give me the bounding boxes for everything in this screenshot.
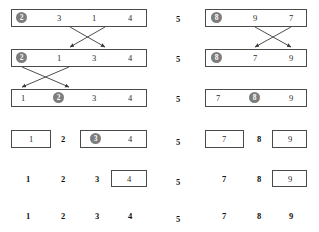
separator-value-row6: 5 xyxy=(172,214,184,224)
left-r5-c3: 3 xyxy=(91,175,103,184)
right-r1-c1-highlight: 8 xyxy=(211,12,222,23)
left-r2-c1-highlight: 2 xyxy=(16,52,27,63)
left-r2-c3: 3 xyxy=(88,54,100,63)
swap-arrow-right-r1-a xyxy=(255,27,291,47)
left-r5-c2: 2 xyxy=(57,175,69,184)
left-r3-c4: 4 xyxy=(124,94,136,103)
right-r5-c1: 7 xyxy=(218,175,230,184)
left-r6-c3: 3 xyxy=(91,212,103,221)
left-r5-c4: 4 xyxy=(123,175,135,184)
swap-arrow-left-r2-b xyxy=(22,67,69,87)
right-r6-c2: 8 xyxy=(253,212,265,221)
left-r1-c1-highlight: 2 xyxy=(16,12,27,23)
swap-arrow-left-r1-b xyxy=(70,27,105,47)
left-r6-c4: 4 xyxy=(124,212,136,221)
right-r4-c1: 7 xyxy=(218,135,230,144)
right-r4-c2: 8 xyxy=(253,135,265,144)
left-r2-c4: 4 xyxy=(124,54,136,63)
right-r1-c3: 7 xyxy=(285,14,297,23)
left-r2-c2: 1 xyxy=(53,54,65,63)
separator-value-row3: 5 xyxy=(172,94,184,104)
right-r2-c3: 9 xyxy=(285,54,297,63)
right-r5-c2: 8 xyxy=(253,175,265,184)
left-r4-c2: 2 xyxy=(57,135,69,144)
separator-value-row2: 5 xyxy=(172,54,184,64)
right-r4-c3: 9 xyxy=(284,135,296,144)
right-r2-c1-highlight: 8 xyxy=(211,52,222,63)
left-r4-c1: 1 xyxy=(25,135,37,144)
left-r1-c3: 1 xyxy=(88,14,100,23)
left-r1-c2: 3 xyxy=(53,14,65,23)
right-r1-c2: 9 xyxy=(249,14,261,23)
swap-arrow-right-r1-b xyxy=(255,27,291,47)
left-r3-c1: 1 xyxy=(17,94,29,103)
right-r3-c2-highlight: 8 xyxy=(249,92,260,103)
right-r3-c3: 9 xyxy=(285,94,297,103)
right-r6-c3: 9 xyxy=(285,212,297,221)
separator-value-row5: 5 xyxy=(172,177,184,187)
left-r3-c2-highlight: 2 xyxy=(53,92,64,103)
right-r3-c1: 7 xyxy=(212,94,224,103)
left-r4-c3-highlight: 3 xyxy=(90,133,101,144)
separator-value-row1: 5 xyxy=(172,14,184,24)
right-r2-c2: 7 xyxy=(249,54,261,63)
swap-arrow-left-r2-a xyxy=(22,67,69,87)
left-r1-c4: 4 xyxy=(124,14,136,23)
swap-arrow-left-r1-a xyxy=(70,27,105,47)
right-r5-c3: 9 xyxy=(284,175,296,184)
left-r3-c3: 3 xyxy=(88,94,100,103)
left-r5-c1: 1 xyxy=(22,175,34,184)
left-r6-c2: 2 xyxy=(57,212,69,221)
swap-arrows-layer xyxy=(0,0,319,232)
left-r6-c1: 1 xyxy=(22,212,34,221)
sorting-diagram: 5 5 5 5 5 5 2 3 1 4 2 1 3 4 1 2 3 4 1 2 … xyxy=(0,0,319,232)
left-r4-c4: 4 xyxy=(124,135,136,144)
separator-value-row4: 5 xyxy=(172,137,184,147)
right-r6-c1: 7 xyxy=(218,212,230,221)
